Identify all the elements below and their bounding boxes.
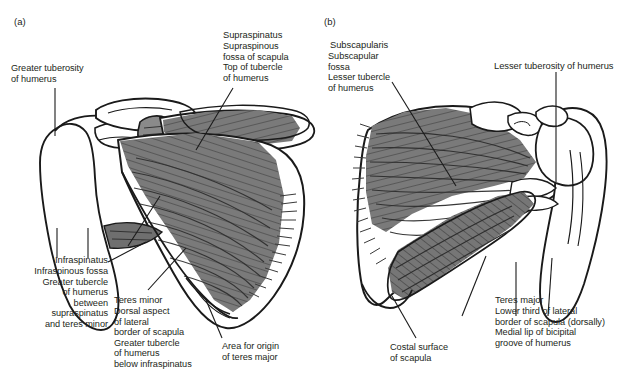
label-subscapularis-heading: Subscapularis: [330, 40, 388, 51]
figure-canvas: (a) (b) Greater tuberosity of humerus Su…: [0, 0, 638, 389]
label-teres-major-detail: Lower third of lateral border of scapula…: [495, 306, 605, 348]
label-infraspinatus-detail: Infraspinous fossa Greater tubercle of h…: [0, 266, 108, 330]
label-teres-minor-heading: Teres minor: [114, 295, 162, 306]
panel-letter-a: (a): [14, 16, 26, 27]
label-teres-minor-detail: Dorsal aspect of lateral border of scapu…: [114, 306, 192, 370]
label-lesser-tuberosity: Lesser tuberosity of humerus: [494, 61, 614, 72]
label-teres-major-heading: Teres major: [495, 295, 543, 306]
label-costal-surface: Costal surface of scapula: [390, 342, 448, 363]
panel-letter-b: (b): [324, 16, 336, 27]
label-subscapularis-detail: Subscapular fossa Lesser tubercle of hum…: [328, 51, 390, 93]
label-greater-tuberosity: Greater tuberosity of humerus: [11, 63, 84, 84]
label-area-for-origin-of-teres-major: Area for origin of teres major: [222, 341, 279, 362]
label-infraspinatus-heading: Infraspinatus: [0, 255, 108, 266]
label-supraspinatus-heading: Supraspinatus: [223, 30, 282, 41]
label-supraspinatus-detail: Supraspinous fossa of scapula Top of tub…: [223, 41, 289, 83]
